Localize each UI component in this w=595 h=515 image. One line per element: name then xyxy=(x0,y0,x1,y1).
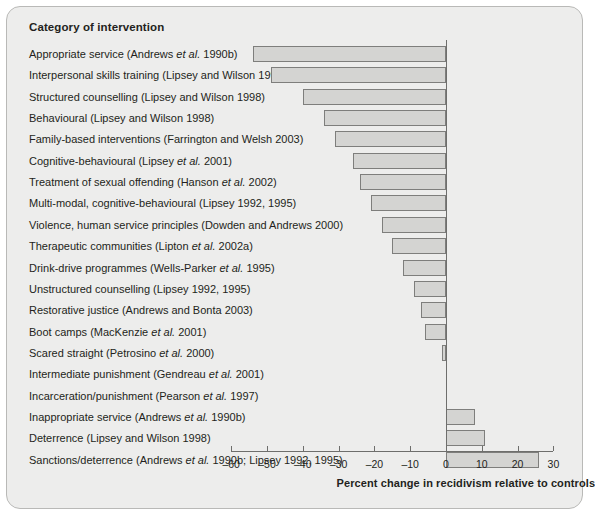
x-axis-tick-label: –20 xyxy=(354,458,394,470)
column-header: Category of intervention xyxy=(29,21,164,33)
x-axis-line xyxy=(231,451,553,452)
figure-panel: Category of intervention Appropriate ser… xyxy=(6,6,583,509)
x-axis-tick-label: –40 xyxy=(283,458,323,470)
x-axis-tick-label: –30 xyxy=(319,458,359,470)
row-label: Therapeutic communities (Lipton et al. 2… xyxy=(29,240,253,252)
chart-bar xyxy=(360,174,446,190)
row-label: Violence, human service principles (Dowd… xyxy=(29,219,343,231)
row-label: Family-based interventions (Farrington a… xyxy=(29,133,303,145)
row-label: Cognitive-behavioural (Lipsey et al. 200… xyxy=(29,155,232,167)
x-axis-tick xyxy=(374,446,375,451)
x-axis-tick xyxy=(446,446,447,451)
row-label: Structured counselling (Lipsey and Wilso… xyxy=(29,91,265,103)
chart-bar xyxy=(392,238,446,254)
chart-bar xyxy=(446,409,475,425)
chart-bar xyxy=(382,217,446,233)
chart-bar xyxy=(271,67,446,83)
chart-bar xyxy=(335,131,446,147)
row-label: Deterrence (Lipsey and Wilson 1998) xyxy=(29,432,211,444)
x-axis-tick xyxy=(303,446,304,451)
chart-bar xyxy=(414,281,446,297)
x-axis-tick-label: 30 xyxy=(533,458,573,470)
x-axis-title: Percent change in recidivism relative to… xyxy=(337,477,595,489)
x-axis-tick xyxy=(482,446,483,451)
row-label: Restorative justice (Andrews and Bonta 2… xyxy=(29,304,253,316)
chart-plot-area: Category of intervention Appropriate ser… xyxy=(7,7,584,510)
row-label: Intermediate punishment (Gendreau et al.… xyxy=(29,368,264,380)
x-axis-tick-label: –10 xyxy=(390,458,430,470)
chart-bar xyxy=(403,260,446,276)
x-axis-tick xyxy=(553,446,554,451)
x-axis-tick-label: –50 xyxy=(247,458,287,470)
row-label: Multi-modal, cognitive-behavioural (Lips… xyxy=(29,197,296,209)
row-label: Inappropriate service (Andrews et al. 19… xyxy=(29,411,245,423)
row-label: Treatment of sexual offending (Hanson et… xyxy=(29,176,277,188)
chart-bar xyxy=(303,89,446,105)
row-label: Unstructured counselling (Lipsey 1992, 1… xyxy=(29,283,250,295)
x-axis-tick xyxy=(231,446,232,451)
chart-bar xyxy=(353,153,446,169)
x-axis-tick xyxy=(410,446,411,451)
chart-bar xyxy=(253,46,446,62)
row-label: Scared straight (Petrosino et al. 2000) xyxy=(29,347,214,359)
row-label: Boot camps (MacKenzie et al. 2001) xyxy=(29,326,206,338)
chart-bar xyxy=(324,110,446,126)
chart-bar xyxy=(446,430,485,446)
x-axis-tick xyxy=(339,446,340,451)
zero-reference-line xyxy=(446,40,447,451)
row-label: Interpersonal skills training (Lipsey an… xyxy=(29,69,286,81)
row-label: Drink-drive programmes (Wells-Parker et … xyxy=(29,262,275,274)
row-label: Behavioural (Lipsey and Wilson 1998) xyxy=(29,112,214,124)
chart-bar xyxy=(371,195,446,211)
x-axis-tick xyxy=(518,446,519,451)
x-axis-tick-label: 20 xyxy=(498,458,538,470)
chart-bar xyxy=(421,302,446,318)
x-axis-tick-label: –60 xyxy=(211,458,251,470)
row-label: Incarceration/punishment (Pearson et al.… xyxy=(29,390,258,402)
x-axis-tick-label: 0 xyxy=(426,458,466,470)
x-axis-tick xyxy=(267,446,268,451)
row-label: Appropriate service (Andrews et al. 1990… xyxy=(29,48,238,60)
chart-bar xyxy=(425,324,446,340)
x-axis-tick-label: 10 xyxy=(462,458,502,470)
